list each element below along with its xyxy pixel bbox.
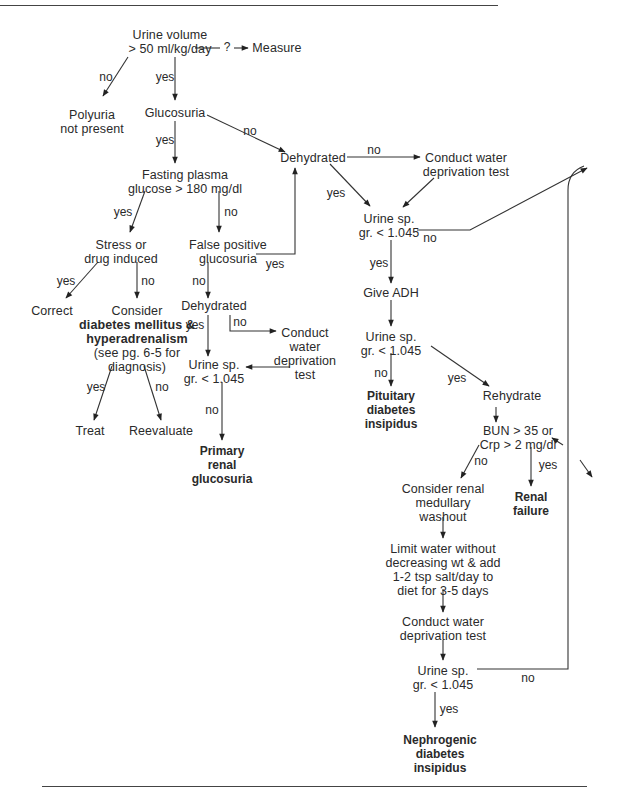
node-text: gr. < 1.045 xyxy=(184,372,245,386)
node-text: Renal xyxy=(513,490,549,504)
node-text: 1-2 tsp salt/day to xyxy=(385,570,500,584)
node-text: Correct xyxy=(31,304,73,318)
edge-label-no: no xyxy=(243,125,256,138)
node-text: BUN > 35 or xyxy=(480,424,557,438)
node-text: Urine sp. xyxy=(184,358,245,372)
edge-label-yes: yes xyxy=(114,206,133,219)
edge-label-no: no xyxy=(141,275,154,288)
node-text: diabetes xyxy=(365,403,418,417)
node-text: decreasing wt & add xyxy=(385,556,500,570)
node-text: False positive xyxy=(189,238,267,252)
edge-label-question: ? xyxy=(224,41,231,54)
node-renal-failure: Renal failure xyxy=(513,490,549,518)
node-urine-sg-3: Urine sp. gr. < 1.045 xyxy=(413,664,474,692)
node-stress-drug-induced: Stress or drug induced xyxy=(84,238,157,266)
node-text: renal xyxy=(192,458,253,472)
node-text: Crp > 2 mg/dl xyxy=(480,438,557,452)
node-text: diabetes xyxy=(403,747,476,761)
node-give-adh: Give ADH xyxy=(363,286,419,300)
node-dehydrated-mid: Dehydrated xyxy=(181,299,247,313)
node-reevaluate: Reevaluate xyxy=(129,424,193,438)
node-text: not present xyxy=(60,122,124,136)
node-dehydrated-top: Dehydrated xyxy=(280,151,346,165)
node-glucosuria: Glucosuria xyxy=(145,106,206,120)
node-urine-sg-mid: Urine sp. gr. < 1.045 xyxy=(184,358,245,386)
edge-label-yes: yes xyxy=(156,71,175,84)
node-text: Consider renal xyxy=(402,482,485,496)
edge-label-no: no xyxy=(192,275,205,288)
node-text: Urine volume xyxy=(128,28,211,42)
node-text: Glucosuria xyxy=(145,106,206,120)
node-text: Urine sp. xyxy=(359,212,420,226)
edge-label-yes: yes xyxy=(327,187,346,200)
node-conduct-water-deprivation-bottom: Conduct water deprivation test xyxy=(400,615,486,643)
node-text: Conduct water xyxy=(400,615,486,629)
node-text: > 50 ml/kg/day xyxy=(128,42,211,56)
node-text: insipidus xyxy=(403,761,476,775)
node-text-bold: hyperadrenalism xyxy=(79,332,195,346)
edge-label-yes: yes xyxy=(539,459,558,472)
node-text: Pituitary xyxy=(365,389,418,403)
node-text: water xyxy=(274,340,336,354)
node-text: Urine sp. xyxy=(413,664,474,678)
edge-label-yes: yes xyxy=(186,319,205,332)
node-correct: Correct xyxy=(31,304,73,318)
node-text: medullary xyxy=(402,496,485,510)
node-urine-sg-1: Urine sp. gr. < 1.045 xyxy=(359,212,420,240)
edge-label-no: no xyxy=(224,206,237,219)
node-conduct-water-deprivation-top: Conduct water deprivation test xyxy=(423,151,509,179)
node-conduct-water-deprivation-mid: Conduct water deprivation test xyxy=(274,326,336,382)
node-bun-creatinine: BUN > 35 or Crp > 2 mg/dl xyxy=(480,424,557,452)
edge-label-yes: yes xyxy=(57,275,76,288)
node-text: gr. < 1.045 xyxy=(361,344,422,358)
node-urine-sg-2: Urine sp. gr. < 1.045 xyxy=(361,330,422,358)
node-text: diet for 3-5 days xyxy=(385,584,500,598)
edge-label-no: no xyxy=(205,404,218,417)
node-text: Measure xyxy=(252,41,301,55)
node-text: Stress or xyxy=(84,238,157,252)
node-limit-water: Limit water without decreasing wt & add … xyxy=(385,542,500,598)
node-text: washout xyxy=(402,510,485,524)
edge-label-no: no xyxy=(155,381,168,394)
edge-label-yes: yes xyxy=(266,258,285,271)
edge-label-no: no xyxy=(99,71,112,84)
node-text: test xyxy=(274,368,336,382)
flowchart-polyuria-diagnosis: Urine volume > 50 ml/kg/day Measure Poly… xyxy=(0,0,621,800)
node-text: Nephrogenic xyxy=(403,733,476,747)
node-text: Conduct xyxy=(274,326,336,340)
node-text: gr. < 1.045 xyxy=(413,678,474,692)
node-text-bold: diabetes mellitus & xyxy=(79,318,195,332)
node-fasting-plasma-glucose: Fasting plasma glucose > 180 mg/dl xyxy=(128,168,242,196)
edge-label-no: no xyxy=(474,455,487,468)
node-text: failure xyxy=(513,504,549,518)
edge-label-no: no xyxy=(423,232,436,245)
node-text: Dehydrated xyxy=(181,299,247,313)
node-text: Consider xyxy=(79,304,195,318)
node-text: Treat xyxy=(75,424,104,438)
node-text: Urine sp. xyxy=(361,330,422,344)
node-rehydrate: Rehydrate xyxy=(483,389,542,403)
edge-label-no: no xyxy=(233,316,246,329)
edge-label-yes: yes xyxy=(440,703,459,716)
node-urine-volume: Urine volume > 50 ml/kg/day xyxy=(128,28,211,56)
node-text: gr. < 1.045 xyxy=(359,226,420,240)
node-false-positive-glucosuria: False positive glucosuria xyxy=(189,238,267,266)
node-text: Give ADH xyxy=(363,286,419,300)
node-text: Limit water without xyxy=(385,542,500,556)
edge-label-yes: yes xyxy=(87,381,106,394)
node-text: glucosuria xyxy=(189,252,267,266)
node-text: deprivation test xyxy=(400,629,486,643)
node-text: Reevaluate xyxy=(129,424,193,438)
node-primary-renal-glucosuria: Primary renal glucosuria xyxy=(192,444,253,486)
edge-label-yes: yes xyxy=(156,134,175,147)
node-text: Polyuria xyxy=(60,108,124,122)
node-text: drug induced xyxy=(84,252,157,266)
node-text: Dehydrated xyxy=(280,151,346,165)
edge-label-no: no xyxy=(374,367,387,380)
node-text: insipidus xyxy=(365,417,418,431)
node-text: Fasting plasma xyxy=(128,168,242,182)
edge-label-no: no xyxy=(521,672,534,685)
node-text: diagnosis) xyxy=(79,360,195,374)
node-consider-diabetes-mellitus: Consider diabetes mellitus & hyperadrena… xyxy=(79,304,195,374)
node-text: (see pg. 6-5 for xyxy=(79,346,195,360)
